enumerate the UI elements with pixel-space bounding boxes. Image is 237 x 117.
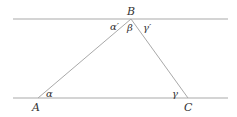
angle-label-alpha-prime: α′ <box>110 21 120 32</box>
angle-label-gamma: γ <box>172 88 178 99</box>
vertex-label-b: B <box>126 5 135 18</box>
angle-label-alpha: α <box>46 88 53 99</box>
vertex-label-a: A <box>31 101 40 114</box>
angle-label-beta: β <box>126 22 133 33</box>
angle-label-gamma-prime: γ′ <box>143 22 152 33</box>
side-bc <box>131 19 188 98</box>
triangle-parallel-lines-diagram: B A C α′ β γ′ α γ <box>0 0 237 117</box>
vertex-label-c: C <box>184 101 193 114</box>
